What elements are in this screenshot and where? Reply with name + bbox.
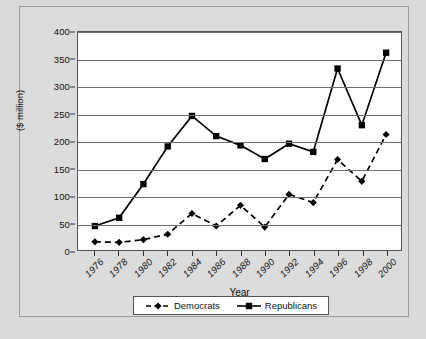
data-point-marker	[140, 236, 147, 243]
gridline	[78, 142, 401, 143]
y-axis-tick-mark	[70, 141, 75, 142]
data-point-marker	[91, 238, 98, 245]
y-axis-tick-mark	[70, 86, 75, 87]
gridline	[78, 60, 401, 61]
y-axis-tick-mark	[70, 59, 75, 60]
y-axis-tick-label: 50	[59, 218, 70, 229]
y-axis-tick-mark	[70, 196, 75, 197]
x-axis-tick-labels: 1976197819801982198419861988199019921994…	[77, 256, 402, 290]
y-axis-tick-mark	[70, 224, 75, 225]
y-axis-tick-label: 300	[54, 81, 70, 92]
plot-area	[77, 31, 402, 251]
data-point-marker	[165, 143, 171, 149]
y-axis-tick-label: 100	[54, 191, 70, 202]
y-axis-tick-mark	[70, 31, 75, 32]
legend-item-democrats[interactable]: Democrats	[145, 300, 220, 311]
data-point-marker	[262, 156, 268, 162]
y-axis-title: ($ million)	[14, 66, 25, 156]
y-axis-tick-label: 200	[54, 136, 70, 147]
series-lines-svg	[78, 32, 401, 250]
gridline	[78, 197, 401, 198]
y-axis-tick-label: 400	[54, 26, 70, 37]
legend-swatch-square-icon	[236, 301, 262, 311]
y-axis-tick-labels: 050100150200250300350400	[40, 31, 74, 251]
data-point-marker	[140, 181, 146, 187]
line-chart-figure: 050100150200250300350400 ($ million) 197…	[0, 0, 426, 339]
data-point-marker	[116, 239, 123, 246]
legend-label: Democrats	[174, 300, 220, 311]
data-point-marker	[383, 131, 390, 138]
legend-item-republicans[interactable]: Republicans	[236, 300, 317, 311]
legend-swatch-diamond-icon	[145, 301, 171, 311]
data-point-marker	[310, 149, 316, 155]
data-point-marker	[334, 156, 341, 163]
chart-legend: DemocratsRepublicans	[133, 296, 329, 315]
data-point-marker	[213, 133, 219, 139]
y-axis-tick-mark	[70, 251, 75, 252]
series-line-republicans	[95, 53, 386, 226]
data-point-marker	[310, 199, 317, 206]
data-point-marker	[359, 122, 365, 128]
gridline	[78, 225, 401, 226]
y-axis-tick-label: 150	[54, 163, 70, 174]
data-point-marker	[237, 142, 243, 148]
y-axis-tick-label: 250	[54, 108, 70, 119]
gridline	[78, 170, 401, 171]
series-line-democrats	[95, 134, 386, 242]
data-point-marker	[116, 215, 122, 221]
gridline	[78, 115, 401, 116]
data-point-marker	[383, 50, 389, 56]
data-point-marker	[334, 65, 340, 71]
y-axis-tick-label: 350	[54, 53, 70, 64]
gridline	[78, 32, 401, 33]
legend-label: Republicans	[265, 300, 317, 311]
gridline	[78, 87, 401, 88]
data-point-marker	[164, 231, 171, 238]
y-axis-tick-mark	[70, 114, 75, 115]
y-axis-tick-mark	[70, 169, 75, 170]
y-axis-tick-label: 0	[65, 246, 70, 257]
